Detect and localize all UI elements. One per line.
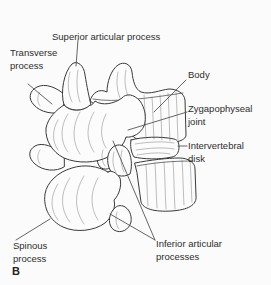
label-zygapophyseal-joint: Zygapophyseal joint <box>188 103 252 128</box>
leader-spinous-process <box>16 219 50 240</box>
leader-superior-articular-process <box>76 40 78 66</box>
label-transverse-process: Transverse process <box>10 47 57 72</box>
label-spinous-process: Spinous process <box>13 240 47 265</box>
label-intervertebral-disk: Intervertebral disk <box>188 140 244 165</box>
label-body: Body <box>188 69 210 82</box>
figure-panel: Superior articular process Transverse pr… <box>0 0 271 285</box>
label-superior-articular-process: Superior articular process <box>52 31 160 44</box>
panel-letter: B <box>12 265 20 277</box>
label-inferior-articular-processes: Inferior articular processes <box>156 238 222 263</box>
